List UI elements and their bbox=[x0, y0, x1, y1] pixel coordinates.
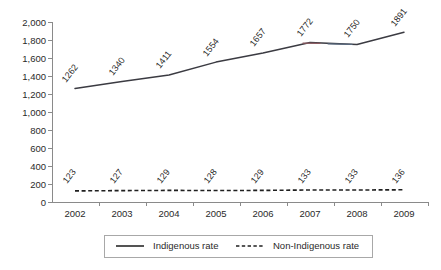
chart-legend: Indigenous rate Non-Indigenous rate bbox=[104, 235, 372, 257]
y-tick-label: 200 bbox=[30, 179, 46, 190]
data-label: 1554 bbox=[201, 36, 221, 58]
y-tick-label: 1,600 bbox=[22, 53, 46, 64]
line-chart: 2,000 1,800 1,600 1,400 1,200 1,000 800 … bbox=[0, 0, 441, 270]
data-label: 1411 bbox=[154, 49, 174, 70]
data-label: 1340 bbox=[107, 55, 127, 77]
data-label: 127 bbox=[108, 167, 125, 185]
legend-label-non-indigenous: Non-Indigenous rate bbox=[273, 240, 359, 251]
data-label: 128 bbox=[202, 167, 219, 185]
x-tick-label: 2007 bbox=[299, 208, 320, 219]
y-tick-label: 1,200 bbox=[22, 89, 46, 100]
y-tick-label: 600 bbox=[30, 143, 46, 154]
data-label: 133 bbox=[296, 167, 313, 185]
x-tick-label: 2004 bbox=[158, 208, 179, 219]
data-label: 129 bbox=[249, 167, 266, 185]
line-scan-tint-blue bbox=[328, 44, 352, 45]
data-label: 123 bbox=[61, 167, 78, 185]
data-label: 129 bbox=[155, 167, 172, 185]
y-tick-label: 1,000 bbox=[22, 107, 46, 118]
legend-label-indigenous: Indigenous rate bbox=[153, 240, 219, 251]
data-label: 1262 bbox=[60, 62, 80, 84]
non-indigenous-data-labels: 123 127 129 128 129 133 133 136 bbox=[61, 167, 407, 185]
data-label: 1772 bbox=[295, 16, 315, 38]
data-label: 1657 bbox=[248, 26, 268, 48]
data-label: 133 bbox=[343, 167, 360, 185]
x-axis-tick-labels: 2002 2003 2004 2005 2006 2007 2008 2009 bbox=[64, 208, 414, 219]
indigenous-data-labels: 1262 1340 1411 1554 1657 1772 1750 1891 bbox=[60, 6, 409, 84]
y-tick-label: 1,400 bbox=[22, 71, 46, 82]
non-indigenous-rate-line bbox=[75, 190, 404, 191]
x-axis-ticks bbox=[99, 202, 428, 206]
y-tick-label: 800 bbox=[30, 125, 46, 136]
x-tick-label: 2009 bbox=[393, 208, 414, 219]
data-label: 1750 bbox=[342, 17, 362, 39]
y-tick-label: 1,800 bbox=[22, 35, 46, 46]
data-label: 1891 bbox=[389, 6, 409, 28]
x-tick-label: 2005 bbox=[205, 208, 226, 219]
y-axis-tick-labels: 2,000 1,800 1,600 1,400 1,200 1,000 800 … bbox=[22, 17, 46, 208]
y-axis-ticks bbox=[48, 22, 52, 202]
x-tick-label: 2008 bbox=[346, 208, 367, 219]
y-tick-label: 400 bbox=[30, 161, 46, 172]
x-tick-label: 2003 bbox=[111, 208, 132, 219]
data-label: 136 bbox=[390, 167, 407, 185]
y-tick-label: 0 bbox=[41, 197, 46, 208]
x-tick-label: 2002 bbox=[64, 208, 85, 219]
x-tick-label: 2006 bbox=[252, 208, 273, 219]
chart-canvas: 2,000 1,800 1,600 1,400 1,200 1,000 800 … bbox=[0, 0, 441, 270]
y-tick-label: 2,000 bbox=[22, 17, 46, 28]
